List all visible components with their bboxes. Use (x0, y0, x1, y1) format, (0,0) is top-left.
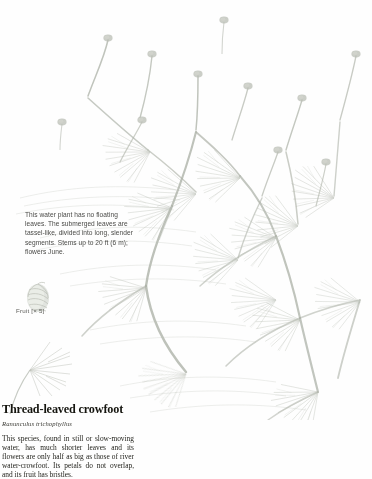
field-guide-page: Fruit [× 5] This water plant has no floa… (0, 0, 372, 479)
caption-line: This water plant has no floating (25, 210, 171, 219)
description-paragraph: This species, found in still or slow-mov… (2, 434, 134, 479)
species-description: This species, found in still or slow-mov… (2, 434, 134, 479)
caption-line: segments. Stems up to 20 ft (6 m); (25, 238, 171, 247)
illustration-caption: This water plant has no floating leaves.… (25, 210, 171, 256)
species-scientific-name: Ranunculus trichophyllus (2, 418, 134, 429)
caption-line: flowers June. (25, 247, 171, 256)
caption-line: leaves. The submerged leaves are (25, 219, 171, 228)
caption-line: tassel-like, divided into long, slender (25, 228, 171, 237)
species-common-name: Thread-leaved crowfoot (2, 403, 134, 416)
species-entry: Thread-leaved crowfoot Ranunculus tricho… (2, 403, 134, 479)
fruit-inset-label: Fruit [× 5] (16, 307, 45, 314)
